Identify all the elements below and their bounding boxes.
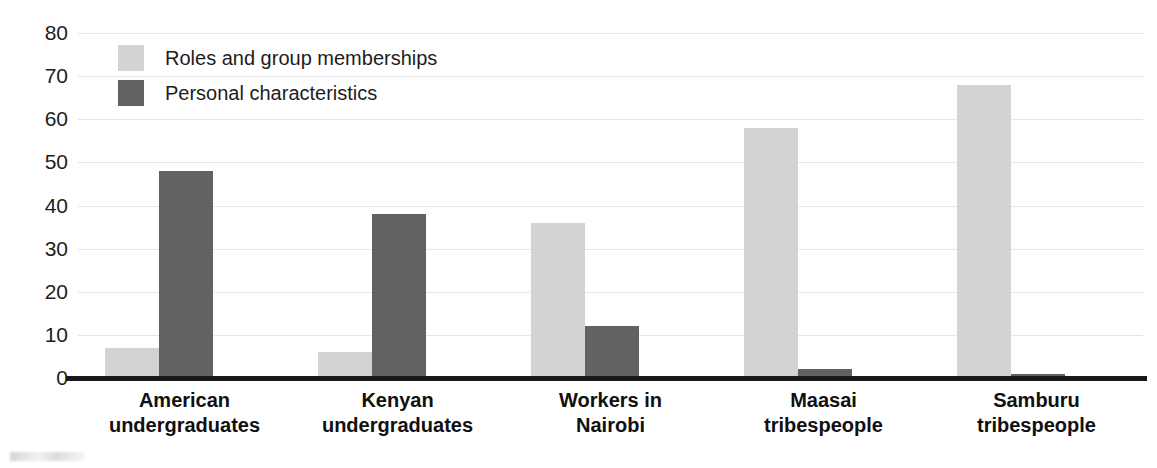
bar-1-1 [372,214,426,378]
y-axis: 80706050403020100 [0,0,68,468]
bar-0-1 [159,171,213,378]
legend-swatch-light-icon [118,45,144,71]
y-tick-label-70: 70 [6,65,68,86]
bar-4-0 [957,85,1011,378]
legend-item-personal-characteristics: Personal characteristics [118,79,437,107]
legend-swatch-dark-icon [118,80,144,106]
x-axis-label-line2: undergraduates [78,413,291,438]
legend-label-series-0: Roles and group memberships [165,48,437,68]
bar-1-0 [318,352,372,378]
x-axis-label-3: Maasaitribespeople [717,388,930,438]
bar-chart: 80706050403020100 Roles and group member… [0,0,1157,468]
x-axis-label-line2: tribespeople [717,413,930,438]
y-tick-label-50: 50 [6,151,68,172]
x-axis-label-line2: Nairobi [504,413,717,438]
x-axis-label-line1: Workers in [559,389,662,411]
y-tick-label-30: 30 [6,238,68,259]
legend-item-roles-and-group-memberships: Roles and group memberships [118,44,437,72]
x-axis-label-line2: undergraduates [291,413,504,438]
y-tick-label-20: 20 [6,281,68,302]
x-axis: AmericanundergraduatesKenyanundergraduat… [78,388,1143,454]
legend: Roles and group memberships Personal cha… [118,44,437,107]
x-axis-label-line1: Kenyan [361,389,433,411]
bar-2-1 [585,326,639,378]
y-tick-label-60: 60 [6,108,68,129]
x-axis-label-line1: Maasai [790,389,857,411]
bar-0-0 [105,348,159,378]
y-tick-label-0: 0 [6,367,68,388]
x-axis-label-line1: American [139,389,230,411]
y-tick-label-10: 10 [6,324,68,345]
bar-3-0 [744,128,798,378]
legend-label-series-1: Personal characteristics [165,83,377,103]
x-axis-label-line2: tribespeople [930,413,1143,438]
x-axis-label-2: Workers inNairobi [504,388,717,438]
x-axis-baseline [66,376,1147,381]
x-axis-label-4: Samburutribespeople [930,388,1143,438]
x-axis-label-line1: Samburu [993,389,1080,411]
scan-artifact [10,452,84,461]
y-tick-label-80: 80 [6,22,68,43]
x-axis-label-1: Kenyanundergraduates [291,388,504,438]
y-tick-label-40: 40 [6,195,68,216]
x-axis-label-0: Americanundergraduates [78,388,291,438]
bar-2-0 [531,223,585,378]
